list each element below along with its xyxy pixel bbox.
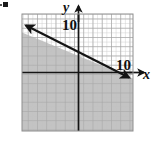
shaded-solution-region [10, 14, 145, 140]
y-tick-label-10: 10 [62, 18, 77, 33]
x-axis-label: x [143, 68, 150, 82]
y-axis-label: y [63, 1, 69, 15]
figure-canvas: y x 10 10 [0, 0, 152, 144]
x-tick-label-10: 10 [116, 58, 131, 73]
